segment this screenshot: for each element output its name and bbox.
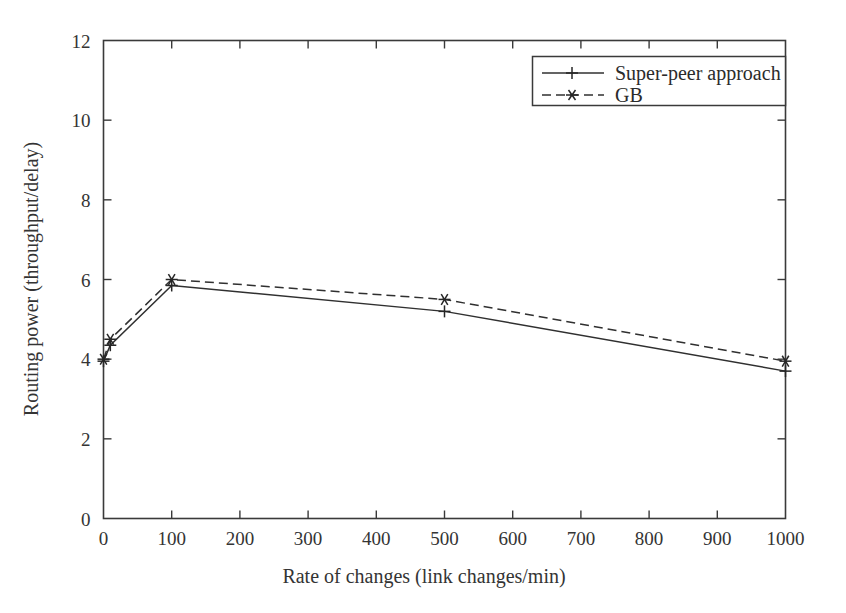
x-tick-label: 900 [703, 528, 732, 549]
x-tick-label: 500 [430, 528, 459, 549]
legend-label-super-peer-approach: Super-peer approach [615, 62, 781, 85]
y-axis-label: Routing power (throughput/delay) [20, 142, 43, 416]
chart-legend: Super-peer approach GB [533, 57, 786, 107]
y-tick-label: 12 [72, 31, 91, 52]
x-tick-label: 100 [157, 528, 186, 549]
x-tick-label: 1000 [767, 528, 805, 549]
x-tick-label: 800 [635, 528, 664, 549]
line-chart: 01002003004005006007008009001000 0246810… [0, 0, 846, 613]
y-tick-label: 0 [81, 509, 91, 530]
y-tick-label: 4 [81, 349, 91, 370]
y-tick-label: 6 [81, 270, 91, 291]
x-tick-label: 700 [567, 528, 596, 549]
y-tick-label: 8 [81, 190, 91, 211]
x-tick-label: 400 [362, 528, 391, 549]
y-tick-label: 2 [81, 429, 91, 450]
x-tick-label: 300 [294, 528, 323, 549]
x-axis-label: Rate of changes (link changes/min) [282, 565, 565, 588]
x-tick-label: 200 [226, 528, 255, 549]
x-tick-label: 0 [99, 528, 109, 549]
chart-figure: 01002003004005006007008009001000 0246810… [0, 0, 846, 613]
x-tick-label: 600 [498, 528, 527, 549]
y-tick-label: 10 [72, 110, 91, 131]
legend-label-gb: GB [615, 84, 643, 106]
